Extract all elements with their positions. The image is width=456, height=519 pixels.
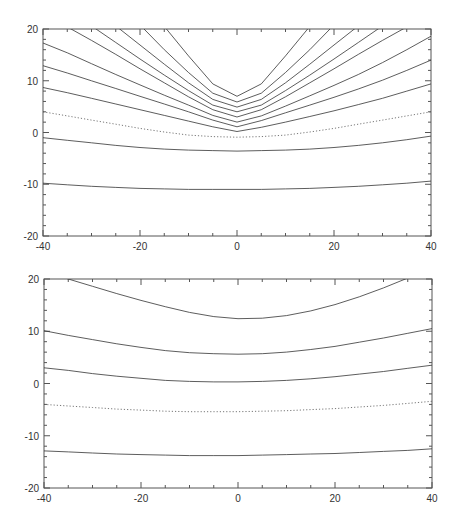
y-tick-label: 20 — [27, 24, 39, 35]
x-tick-label: 0 — [235, 493, 241, 504]
y-tick-label: -20 — [25, 483, 40, 494]
x-tick-label: 20 — [328, 241, 340, 252]
x-tick-label: -20 — [134, 493, 149, 504]
contour-2-line — [44, 329, 432, 355]
contour-5-line — [44, 449, 432, 456]
x-tick-label: 20 — [329, 493, 341, 504]
x-tick-label: -40 — [37, 493, 52, 504]
y-tick-label: -10 — [25, 431, 40, 442]
y-tick-label: 20 — [28, 274, 40, 285]
x-tick-label: -40 — [36, 241, 51, 252]
bottom-plot: -40-2002040-20-1001020 — [25, 268, 438, 504]
y-tick-label: 0 — [32, 128, 38, 139]
contour-4-line — [44, 401, 432, 411]
contour-3-line — [44, 365, 432, 382]
contour-plots: -40-2002040-20-1001020 -40-2002040-20-10… — [0, 0, 456, 519]
contour-6-line — [43, 36, 431, 122]
plot-frame — [44, 279, 432, 488]
y-tick-label: 10 — [28, 326, 40, 337]
y-tick-label: -20 — [24, 231, 39, 242]
contour-1-line — [44, 268, 432, 319]
contour-2-line — [116, 0, 358, 102]
x-tick-label: 0 — [234, 241, 240, 252]
y-tick-label: -10 — [24, 179, 39, 190]
contour-11-line — [43, 181, 431, 189]
y-tick-label: 0 — [33, 379, 39, 390]
x-tick-label: -20 — [133, 241, 148, 252]
y-tick-label: 10 — [27, 76, 39, 87]
contour-9-line — [43, 112, 431, 137]
x-tick-label: 40 — [425, 241, 437, 252]
x-tick-label: 40 — [426, 493, 438, 504]
contour-3-line — [92, 7, 383, 107]
plot-frame — [43, 29, 431, 236]
contour-1-line — [140, 0, 334, 96]
contour-8-line — [43, 84, 431, 132]
contour-10-line — [43, 136, 431, 151]
top-plot: -40-2002040-20-1001020 — [24, 0, 437, 252]
